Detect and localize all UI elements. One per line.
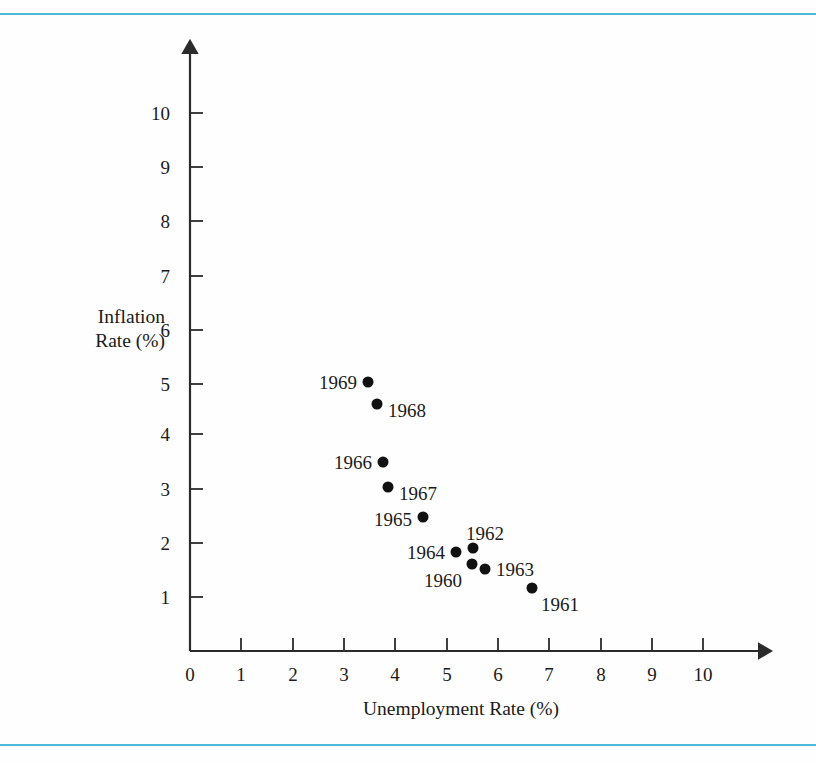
x-tick-label: 7 — [532, 665, 566, 684]
x-tick-label: 4 — [378, 665, 412, 684]
y-tick-label: 4 — [130, 425, 170, 444]
data-point[interactable] — [527, 583, 538, 594]
y-tick-label: 3 — [130, 480, 170, 499]
data-point-label: 1960 — [424, 571, 462, 590]
x-tick-label: 0 — [173, 665, 207, 684]
data-point-label: 1968 — [388, 401, 426, 420]
data-point[interactable] — [468, 543, 479, 554]
data-point-label: 1965 — [374, 510, 412, 529]
data-point-label: 1967 — [399, 484, 437, 503]
x-tick-label: 3 — [327, 665, 361, 684]
y-axis-title-line1: Inflation — [55, 305, 165, 329]
x-axis-title: Unemployment Rate (%) — [363, 697, 559, 721]
data-point[interactable] — [383, 482, 394, 493]
y-tick-label: 1 — [130, 588, 170, 607]
y-tick-label: 7 — [130, 267, 170, 286]
scatter-plot: 10 9 8 7 6 5 4 3 2 1 0 1 2 3 4 5 6 7 8 9… — [0, 0, 816, 763]
y-axis-title-line2: Rate (%) — [55, 329, 165, 353]
x-tick-label: 2 — [276, 665, 310, 684]
y-tick-label: 10 — [130, 104, 170, 123]
x-tick-label: 5 — [430, 665, 464, 684]
axes-lines — [0, 0, 816, 763]
x-tick-label: 6 — [481, 665, 515, 684]
data-point[interactable] — [467, 559, 478, 570]
data-point[interactable] — [480, 564, 491, 575]
x-tick-label: 1 — [224, 665, 258, 684]
data-point[interactable] — [418, 512, 429, 523]
data-point[interactable] — [451, 547, 462, 558]
y-tick-label: 5 — [130, 375, 170, 394]
y-tick-label: 2 — [130, 534, 170, 553]
y-tick-label: 8 — [130, 212, 170, 231]
data-point[interactable] — [363, 377, 374, 388]
x-tick-label: 9 — [635, 665, 669, 684]
data-point-label: 1963 — [496, 560, 534, 579]
data-point-label: 1964 — [407, 543, 445, 562]
data-point-label: 1969 — [319, 373, 357, 392]
x-tick-label: 8 — [584, 665, 618, 684]
y-tick-label: 9 — [130, 158, 170, 177]
x-tick-label: 10 — [686, 665, 720, 684]
data-point-label: 1962 — [466, 524, 504, 543]
data-point[interactable] — [372, 399, 383, 410]
data-point-label: 1966 — [334, 453, 372, 472]
data-point-label: 1961 — [541, 595, 579, 614]
data-point[interactable] — [378, 457, 389, 468]
figure-frame: 10 9 8 7 6 5 4 3 2 1 0 1 2 3 4 5 6 7 8 9… — [0, 0, 816, 763]
